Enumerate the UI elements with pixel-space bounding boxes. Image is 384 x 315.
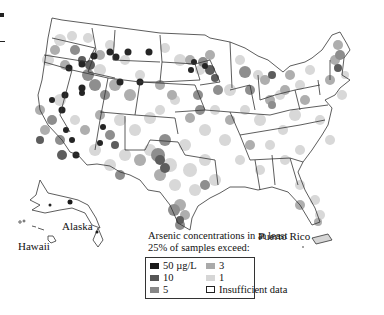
alaska-outline [30, 180, 103, 247]
swatch-3 [206, 263, 215, 269]
legend-label: 3 [219, 260, 224, 271]
legend-label: 50 µg/L [163, 260, 197, 271]
state-boundaries [38, 18, 350, 230]
legend-label: 1 [219, 272, 224, 283]
legend-item-10: 10 [150, 272, 174, 283]
puerto-rico-outline [312, 234, 332, 244]
swatch-insufficient [206, 286, 215, 293]
legend-label: 10 [163, 272, 174, 283]
legend-item-50: 50 µg/L [150, 260, 197, 271]
legend: 50 µg/L 10 5 3 1 Insufficient data [145, 257, 255, 299]
swatch-1 [206, 275, 215, 281]
label-alaska: Alaska [62, 220, 93, 232]
legend-title-line2: 25% of samples exceed: [148, 242, 287, 254]
legend-title-line1: Arsenic concentrations in at least [148, 230, 287, 242]
legend-item-1: 1 [206, 272, 224, 283]
legend-label: Insufficient data [219, 284, 287, 295]
legend-item-3: 3 [206, 260, 224, 271]
swatch-10 [150, 275, 159, 281]
legend-label: 5 [163, 284, 168, 295]
legend-item-5: 5 [150, 284, 168, 295]
legend-item-insufficient: Insufficient data [206, 284, 287, 295]
legend-title: Arsenic concentrations in at least 25% o… [148, 230, 287, 254]
swatch-5 [150, 287, 159, 293]
swatch-50 [150, 263, 159, 269]
label-hawaii: Hawaii [18, 240, 50, 252]
